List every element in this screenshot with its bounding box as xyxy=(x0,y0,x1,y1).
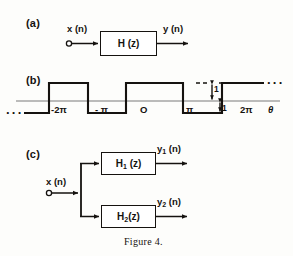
amplitude-label-upper: 1 xyxy=(214,84,219,94)
panel-b-ellipsis-right: ··· xyxy=(267,76,285,89)
panel-label-c: (c) xyxy=(26,148,40,160)
panel-label-b: (b) xyxy=(26,74,41,86)
axis-tick-label-neg-2pi: -2π xyxy=(51,104,67,115)
axis-tick-label-neg-pi: - π xyxy=(95,104,108,115)
amplitude-label-lower: 1 xyxy=(222,103,227,113)
panel-c-input-label: x (n) xyxy=(46,176,66,187)
axis-tick-label-2pi: 2π xyxy=(240,104,253,115)
block-h1-z-label: H1 (z) xyxy=(116,158,142,170)
block-h1-z: H1 (z) xyxy=(101,152,156,175)
figure-4-container: (a) x (n) H (z) y (n) (b) ··· ··· -2π - … xyxy=(0,0,293,256)
panel-a-output-label: y (n) xyxy=(163,23,183,34)
axis-tick-label-pi: π xyxy=(186,104,193,115)
panel-a-input-label: x (n) xyxy=(67,23,87,34)
block-h2-z-label: H2(z) xyxy=(117,211,140,223)
panel-label-a: (a) xyxy=(26,17,40,29)
axis-tick-label-origin: O xyxy=(140,104,147,115)
panel-c-output1-label: y1 (n) xyxy=(157,143,181,155)
panel-c-input-terminal xyxy=(46,190,51,195)
axis-label-theta: θ xyxy=(268,104,273,115)
block-h-z-label: H (z) xyxy=(118,38,140,49)
panel-c-output2-label: y2 (n) xyxy=(157,196,181,208)
block-h2-z: H2(z) xyxy=(101,205,156,228)
block-h-z: H (z) xyxy=(100,31,157,56)
panel-b-ellipsis-left: ··· xyxy=(6,106,24,119)
panel-a-input-terminal xyxy=(66,41,71,46)
figure-caption: Figure 4. xyxy=(124,236,163,247)
